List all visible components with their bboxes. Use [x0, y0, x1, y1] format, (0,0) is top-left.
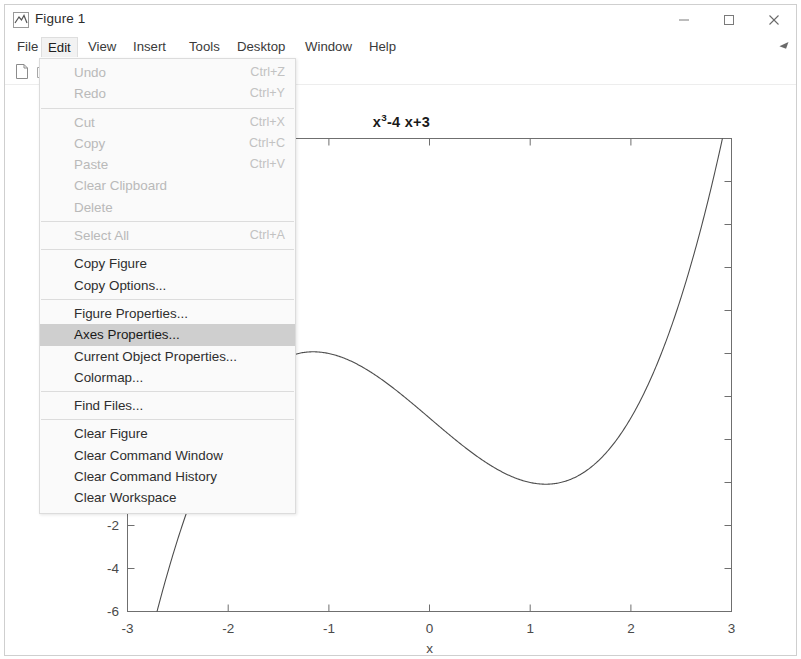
- new-figure-icon[interactable]: [11, 61, 33, 82]
- x-axis-label: x: [426, 641, 433, 656]
- menu-item-label: Colormap...: [74, 370, 143, 385]
- menu-item-shortcut: Ctrl+Y: [250, 83, 285, 104]
- menu-item-label: Cut: [74, 115, 95, 130]
- menu-separator: [41, 108, 294, 109]
- menu-tools[interactable]: Tools: [183, 37, 226, 57]
- menu-item-select-all: Select AllCtrl+A: [40, 225, 295, 246]
- xtick-label--2: -2: [222, 621, 234, 636]
- xtick-label-3: 3: [728, 621, 736, 636]
- xtick-label-1: 1: [526, 621, 534, 636]
- menu-item-label: Copy: [74, 136, 105, 151]
- menu-desktop[interactable]: Desktop: [231, 37, 291, 57]
- menu-separator: [41, 299, 294, 300]
- menu-item-find-files[interactable]: Find Files...: [40, 395, 295, 416]
- menu-item-undo: UndoCtrl+Z: [40, 62, 295, 83]
- menu-item-label: Clear Command History: [74, 469, 217, 484]
- menu-item-shortcut: Ctrl+V: [250, 154, 285, 175]
- ytick-label--6: -6: [107, 604, 119, 619]
- menu-view[interactable]: View: [82, 37, 122, 57]
- menu-separator: [41, 221, 294, 222]
- xtick-label-0: 0: [426, 621, 434, 636]
- menu-separator: [41, 391, 294, 392]
- menu-item-colormap[interactable]: Colormap...: [40, 367, 295, 388]
- xtick-label--1: -1: [323, 621, 335, 636]
- menu-window[interactable]: Window: [299, 37, 358, 57]
- window-title: Figure 1: [35, 11, 85, 26]
- menu-item-label: Axes Properties...: [74, 327, 180, 342]
- menu-item-paste: PasteCtrl+V: [40, 154, 295, 175]
- menu-item-label: Redo: [74, 86, 106, 101]
- menu-item-figure-properties[interactable]: Figure Properties...: [40, 303, 295, 324]
- menu-item-delete: Delete: [40, 197, 295, 218]
- menu-bar: File Edit View Insert Tools Desktop Wind…: [5, 36, 796, 58]
- menu-item-label: Figure Properties...: [74, 306, 188, 321]
- menu-insert[interactable]: Insert: [127, 37, 172, 57]
- menu-item-clear-workspace[interactable]: Clear Workspace: [40, 487, 295, 508]
- menu-help[interactable]: Help: [363, 37, 402, 57]
- close-button[interactable]: [751, 5, 796, 35]
- menu-file[interactable]: File: [11, 37, 44, 57]
- menu-item-label: Current Object Properties...: [74, 349, 237, 364]
- figure-window: Figure 1 File Edit View Insert Tools Des…: [4, 4, 797, 656]
- menu-item-shortcut: Ctrl+A: [250, 225, 285, 246]
- menu-item-label: Clear Figure: [74, 426, 148, 441]
- menu-item-copy: CopyCtrl+C: [40, 133, 295, 154]
- menu-item-label: Find Files...: [74, 398, 143, 413]
- menu-item-label: Copy Figure: [74, 256, 147, 271]
- menu-item-label: Delete: [74, 200, 113, 215]
- menu-item-redo: RedoCtrl+Y: [40, 83, 295, 104]
- menu-item-label: Paste: [74, 157, 108, 172]
- menu-item-cut: CutCtrl+X: [40, 112, 295, 133]
- minimize-button[interactable]: [661, 5, 706, 35]
- ytick-label--4: -4: [107, 561, 119, 576]
- menu-item-copy-options[interactable]: Copy Options...: [40, 275, 295, 296]
- menu-item-label: Select All: [74, 228, 129, 243]
- edit-dropdown-menu[interactable]: UndoCtrl+ZRedoCtrl+YCutCtrl+XCopyCtrl+CP…: [39, 58, 296, 514]
- menu-item-axes-properties[interactable]: Axes Properties...: [40, 324, 295, 345]
- menu-separator: [41, 249, 294, 250]
- menu-item-label: Clear Clipboard: [74, 178, 167, 193]
- menu-item-label: Clear Workspace: [74, 490, 176, 505]
- menu-item-clear-command-history[interactable]: Clear Command History: [40, 466, 295, 487]
- menu-item-clear-clipboard: Clear Clipboard: [40, 175, 295, 196]
- menu-overflow-arrow-icon[interactable]: [779, 42, 790, 51]
- menu-edit[interactable]: Edit: [41, 37, 78, 57]
- xtick-label--3: -3: [121, 621, 133, 636]
- menu-item-label: Undo: [74, 65, 106, 80]
- menu-item-current-object-properties[interactable]: Current Object Properties...: [40, 346, 295, 367]
- menu-item-clear-figure[interactable]: Clear Figure: [40, 423, 295, 444]
- menu-item-label: Clear Command Window: [74, 448, 223, 463]
- menu-item-shortcut: Ctrl+C: [249, 133, 285, 154]
- menu-item-clear-command-window[interactable]: Clear Command Window: [40, 445, 295, 466]
- matlab-figure-icon: [13, 12, 29, 28]
- xtick-label-2: 2: [627, 621, 635, 636]
- ytick-label--2: -2: [107, 518, 119, 533]
- menu-item-shortcut: Ctrl+Z: [250, 62, 285, 83]
- menu-item-label: Copy Options...: [74, 278, 166, 293]
- menu-item-shortcut: Ctrl+X: [250, 112, 285, 133]
- menu-item-copy-figure[interactable]: Copy Figure: [40, 253, 295, 274]
- maximize-button[interactable]: [706, 5, 751, 35]
- menu-separator: [41, 419, 294, 420]
- title-bar: Figure 1: [5, 5, 796, 36]
